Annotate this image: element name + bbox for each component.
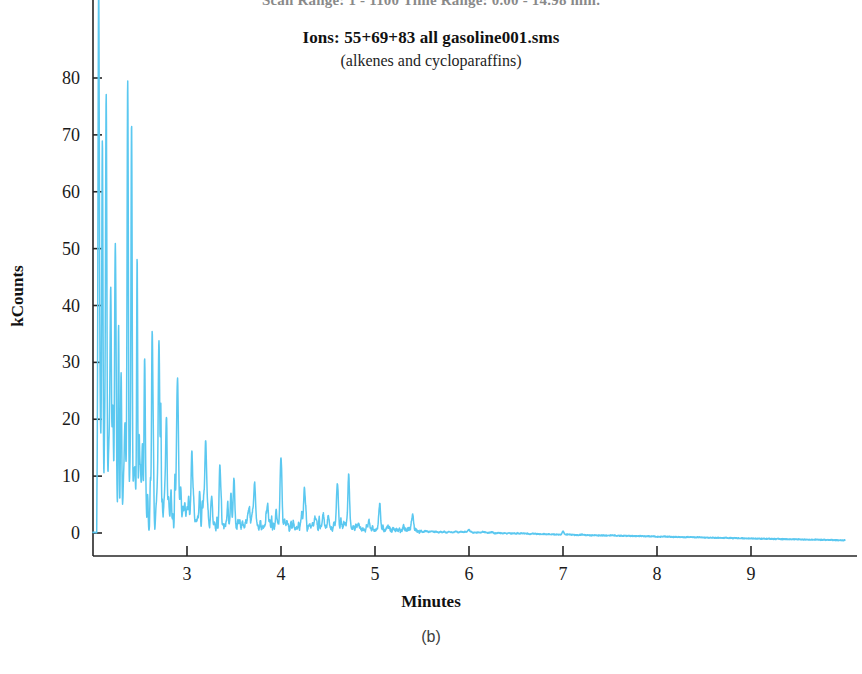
y-tick-label-50: 50 — [62, 239, 80, 259]
y-tick-label-0: 0 — [71, 523, 80, 543]
x-tick-label-3: 3 — [183, 564, 192, 584]
y-tick-label-30: 30 — [62, 352, 80, 372]
axis-group — [93, 0, 857, 556]
y-tick-label-70: 70 — [62, 125, 80, 145]
chromatogram-figure: Scan Range: 1 - 1100 Time Range: 0.00 - … — [0, 0, 862, 674]
chromatogram-plot: 010203040506070803456789 — [0, 0, 862, 674]
y-tick-label-60: 60 — [62, 182, 80, 202]
x-tick-label-6: 6 — [465, 564, 474, 584]
ion-chromatogram-trace — [93, 0, 845, 541]
x-tick-label-7: 7 — [559, 564, 568, 584]
y-tick-label-80: 80 — [62, 68, 80, 88]
y-tick-label-10: 10 — [62, 466, 80, 486]
x-tick-label-5: 5 — [371, 564, 380, 584]
x-tick-label-9: 9 — [747, 564, 756, 584]
y-tick-label-40: 40 — [62, 296, 80, 316]
x-tick-label-4: 4 — [277, 564, 286, 584]
tick-group: 010203040506070803456789 — [62, 68, 756, 584]
trace-group — [93, 0, 845, 541]
x-tick-label-8: 8 — [653, 564, 662, 584]
y-tick-label-20: 20 — [62, 409, 80, 429]
